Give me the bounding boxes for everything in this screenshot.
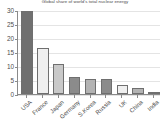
x-tick-text: China <box>128 99 144 114</box>
x-tick-mark-6 <box>121 95 122 98</box>
y-tick-label-30: 30 <box>0 8 14 14</box>
x-tick-mark-7 <box>137 95 138 98</box>
x-tick-text: India <box>146 99 160 112</box>
chart-title: Global share of world's total nuclear en… <box>6 0 164 4</box>
x-tick-mark-8 <box>153 95 154 98</box>
x-tick-text: UK <box>118 99 128 109</box>
bar-china <box>132 88 143 94</box>
y-tick-label-15: 15 <box>0 50 14 56</box>
bar-usa <box>21 11 32 94</box>
y-axis-labels: 051015202530 <box>0 11 14 95</box>
x-tick-mark-1 <box>42 95 43 98</box>
x-tick-mark-2 <box>58 95 59 98</box>
plot-area <box>17 11 160 95</box>
bar-chart: Global share of world's total nuclear en… <box>0 0 164 120</box>
x-tick-mark-0 <box>26 95 27 98</box>
y-tick-label-25: 25 <box>0 22 14 28</box>
y-tick-label-10: 10 <box>0 64 14 70</box>
y-tick-label-0: 0 <box>0 92 14 98</box>
bar-series <box>18 11 160 94</box>
y-tick-label-5: 5 <box>0 78 14 84</box>
x-tick-mark-5 <box>105 95 106 98</box>
x-axis-labels: USAFranceJapanGermanyS.KoreaRussiaUKChin… <box>17 95 160 120</box>
bar-france <box>37 48 48 94</box>
x-tick-label-uk: UK <box>124 93 134 103</box>
x-tick-mark-4 <box>90 95 91 98</box>
y-tick-label-20: 20 <box>0 36 14 42</box>
x-tick-mark-3 <box>74 95 75 98</box>
